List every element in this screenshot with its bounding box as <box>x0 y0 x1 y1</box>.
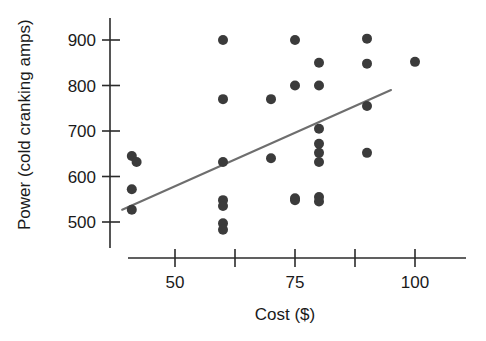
data-point <box>314 148 324 158</box>
data-point <box>314 139 324 149</box>
data-point <box>362 59 372 69</box>
data-point <box>410 57 420 67</box>
data-point <box>290 35 300 45</box>
data-point <box>127 205 137 215</box>
plot-canvas: 500600700800900 5075100 Power (cold cran… <box>0 0 486 341</box>
data-point <box>218 94 228 104</box>
data-point <box>314 197 324 207</box>
data-point <box>314 58 324 68</box>
data-point <box>362 34 372 44</box>
x-tick-label: 100 <box>401 273 429 292</box>
data-point <box>218 35 228 45</box>
data-point <box>362 101 372 111</box>
data-point <box>266 94 276 104</box>
data-point <box>314 81 324 91</box>
y-axis-title: Power (cold cranking amps) <box>15 19 34 230</box>
data-point <box>314 157 324 167</box>
data-point <box>127 184 137 194</box>
y-tick-label: 900 <box>68 31 96 50</box>
x-axis-title: Cost ($) <box>255 305 315 324</box>
y-tick-label: 500 <box>68 213 96 232</box>
x-tick-label: 75 <box>286 273 305 292</box>
y-tick-label: 700 <box>68 122 96 141</box>
y-tick-label: 600 <box>68 168 96 187</box>
data-point <box>314 124 324 134</box>
data-point <box>290 81 300 91</box>
data-point <box>132 157 142 167</box>
data-point <box>362 148 372 158</box>
scatter-plot-figure: 500600700800900 5075100 Power (cold cran… <box>0 0 486 341</box>
y-tick-label: 800 <box>68 77 96 96</box>
data-point <box>218 225 228 235</box>
data-point <box>290 195 300 205</box>
data-point <box>218 201 228 211</box>
data-point <box>266 153 276 163</box>
x-tick-label: 50 <box>166 273 185 292</box>
data-point <box>218 157 228 167</box>
